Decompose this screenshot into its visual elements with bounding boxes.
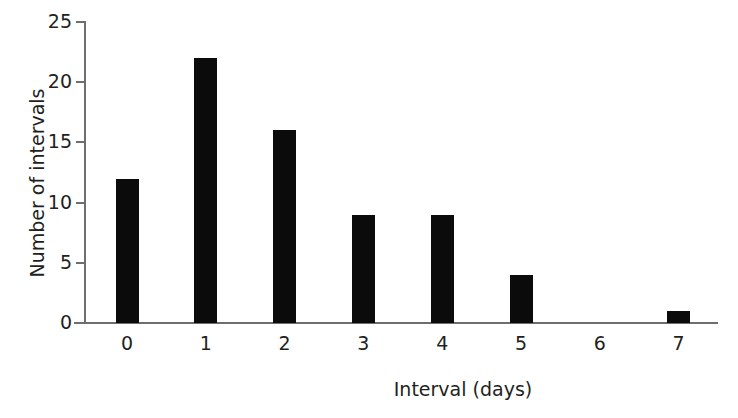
x-axis-tick-label: 5	[501, 334, 541, 353]
y-axis-tick-label: 25	[44, 12, 72, 31]
bar	[510, 275, 533, 323]
bar	[194, 58, 217, 323]
x-axis-tick-label: 7	[659, 334, 699, 353]
x-axis-tick-labels: 01234567	[85, 334, 718, 364]
bar	[667, 311, 690, 323]
x-axis-tick-label: 3	[343, 334, 383, 353]
y-axis-tick	[76, 81, 84, 83]
bar	[352, 215, 375, 323]
bar	[116, 179, 139, 323]
x-axis-title: Interval (days)	[0, 378, 738, 400]
x-axis-tick-label: 2	[265, 334, 305, 353]
x-axis-tick-label: 1	[186, 334, 226, 353]
bar	[431, 215, 454, 323]
y-axis-tick-label: 15	[44, 132, 72, 151]
plot-area	[85, 22, 718, 323]
bar	[273, 130, 296, 323]
y-axis-tick	[76, 21, 84, 23]
y-axis-tick	[76, 202, 84, 204]
x-axis-tick-label: 6	[580, 334, 620, 353]
x-axis-title-text: Interval (days)	[394, 378, 532, 400]
y-axis-tick-label: 10	[44, 193, 72, 212]
y-axis-tick	[76, 262, 84, 264]
bar-chart: 0510152025 01234567 Interval (days) Numb…	[0, 0, 738, 418]
x-axis-tick-label: 4	[422, 334, 462, 353]
y-axis-tick	[76, 322, 84, 324]
y-axis-tick-label: 0	[44, 313, 72, 332]
y-axis-title: Number of intervals	[26, 53, 48, 313]
y-axis-tick-label: 20	[44, 72, 72, 91]
x-axis-tick-label: 0	[107, 334, 147, 353]
y-axis-tick	[76, 141, 84, 143]
y-axis-tick-label: 5	[44, 253, 72, 272]
